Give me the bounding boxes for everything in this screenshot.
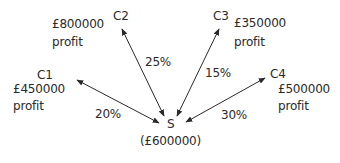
node-c2-value: £800000	[52, 17, 104, 31]
node-c2-note: profit	[52, 35, 83, 49]
node-c2-label: C2	[113, 9, 129, 23]
node-c1-note: profit	[13, 99, 44, 113]
probability-c4: 30%	[221, 108, 247, 122]
node-c3-note: profit	[234, 35, 265, 49]
center-node-label: S	[167, 117, 174, 131]
probability-c3: 15%	[205, 66, 231, 80]
probability-c1: 20%	[95, 107, 121, 121]
node-c3-value: £350000	[234, 16, 286, 30]
node-c1-label: C1	[37, 68, 53, 82]
node-c3-label: C3	[213, 9, 229, 23]
center-node-value: (£600000)	[140, 134, 201, 148]
decision-diagram: S (£600000) C1 £450000 profit 20% C2 £80…	[0, 0, 340, 163]
node-c4-label: C4	[270, 67, 286, 81]
node-c4-value: £500000	[278, 82, 330, 96]
arrow-c2-s	[122, 29, 164, 116]
probability-c2: 25%	[145, 55, 171, 69]
node-c4-note: profit	[278, 99, 309, 113]
node-c1-value: £450000	[13, 82, 65, 96]
